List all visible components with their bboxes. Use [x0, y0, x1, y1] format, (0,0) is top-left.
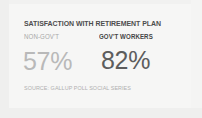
source-citation: SOURCE: GALLUP POLL SOCIAL SERIES — [24, 85, 131, 91]
column-label-non-govt: NON-GOV'T — [24, 33, 59, 40]
card-content: SATISFACTION WITH RETIREMENT PLAN NON-GO… — [0, 0, 202, 118]
page-title: SATISFACTION WITH RETIREMENT PLAN — [24, 19, 161, 28]
column-label-govt-workers: GOV'T WORKERS — [99, 33, 153, 40]
stat-value-non-govt: 57% — [23, 49, 72, 74]
infographic-card: SATISFACTION WITH RETIREMENT PLAN NON-GO… — [0, 0, 202, 118]
stat-value-govt-workers: 82% — [101, 48, 150, 73]
